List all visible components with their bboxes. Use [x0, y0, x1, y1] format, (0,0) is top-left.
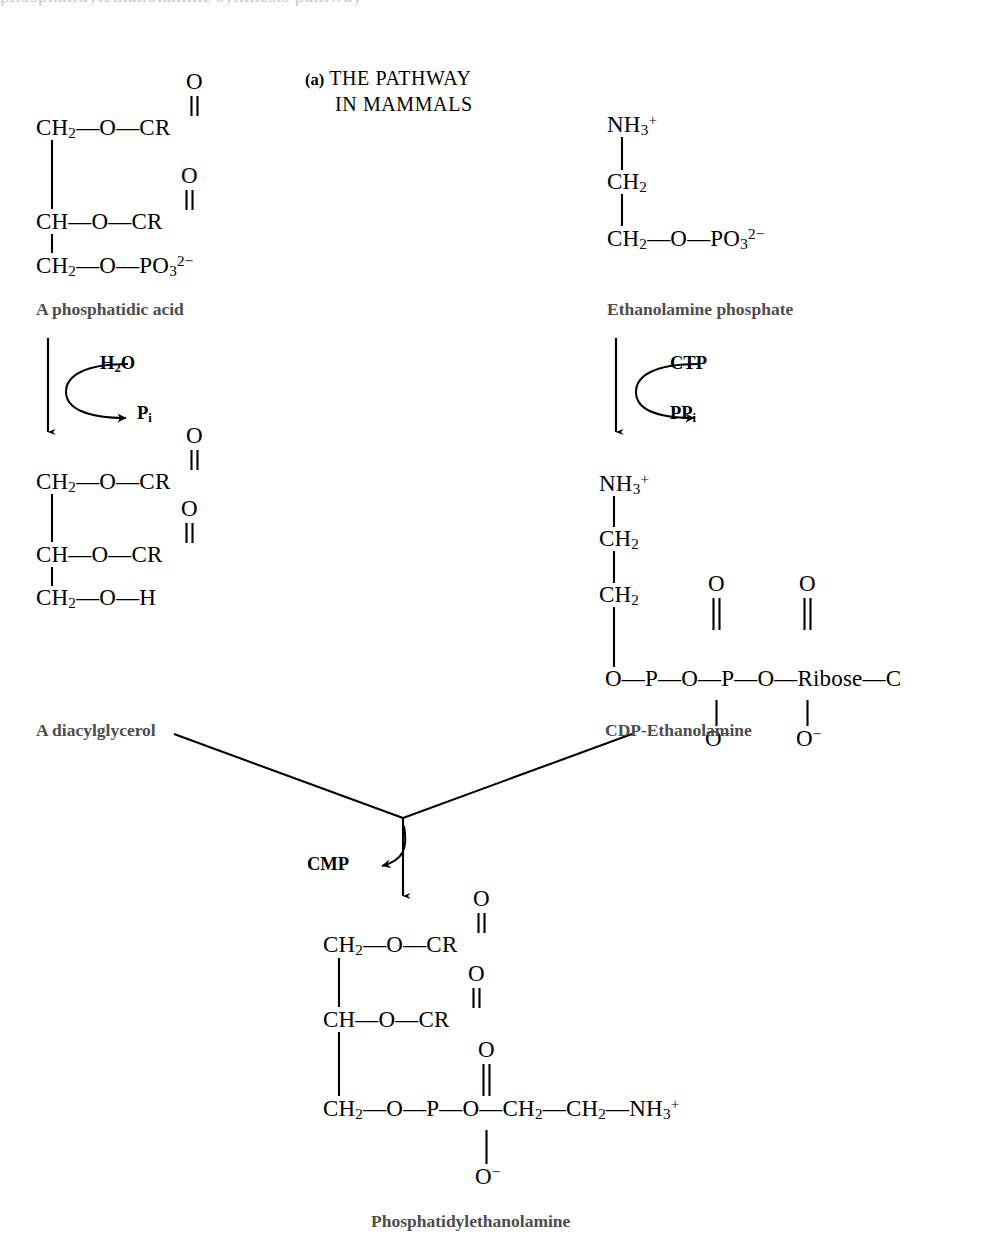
cofactor-water: H2O [100, 354, 135, 374]
dag-carbonyl-oxygen-1: O [186, 424, 203, 447]
converge-line-right [403, 734, 632, 818]
compound-label-diacylglycerol: A diacylglycerol [36, 722, 156, 740]
panel-tag: (a) [305, 70, 324, 89]
cdp-p2-top-oxygen: O [799, 572, 816, 595]
pe-carbonyl-oxygen-2: O [468, 962, 485, 985]
cdp-p2-bottom-oxygen: O− [796, 726, 822, 750]
cdp-diphosphate-chain: O—P—O—P—O—Ribose—C [605, 667, 901, 690]
compound-label-ethanolamine-phosphate: Ethanolamine phosphate [607, 301, 793, 319]
carbonyl-oxygen-2: O [181, 164, 198, 187]
curved-arrow-cmp-release [382, 826, 405, 866]
converge-line-left [174, 734, 403, 818]
glycerol-c2-row: CH—O—CR [36, 210, 163, 233]
compound-label-phosphatidylethanolamine: Phosphatidylethanolamine [371, 1213, 570, 1231]
dag-c1-row: CH2—O—CR [36, 470, 170, 494]
cofactor-inorganic-phosphate: Pi [137, 404, 152, 424]
compound-label-cdp-ethanolamine: CDP-Ethanolamine [605, 722, 752, 740]
panel-title: (a) THE PATHWAY IN MAMMALS [305, 66, 473, 117]
pe-c1-row: CH2—O—CR [323, 933, 457, 957]
etn-amino-group: NH3+ [607, 112, 657, 137]
carbonyl-oxygen-1: O [186, 70, 203, 93]
cofactor-ctp: CTP [670, 354, 707, 373]
bond-and-arrow-layer [0, 0, 983, 1253]
etn-ch2-lower-row: CH2—O—PO32− [607, 226, 765, 251]
clipped-text: phosphatidylethanolamine synthesis pathw… [0, 0, 362, 6]
dag-c3-row: CH2—O—H [36, 586, 156, 610]
pe-phosphate-bottom-oxygen: O− [475, 1164, 501, 1188]
clipped-text-sliver: phosphatidylethanolamine synthesis pathw… [0, 0, 983, 6]
panel-title-line-2: IN MAMMALS [305, 92, 473, 118]
pe-carbonyl-oxygen-1: O [473, 887, 490, 910]
glycerol-c3-row: CH2—O—PO32− [36, 253, 194, 278]
figure-canvas: phosphatidylethanolamine synthesis pathw… [0, 0, 983, 1253]
cdp-p1-top-oxygen: O [708, 572, 725, 595]
compound-label-phosphatidic-acid: A phosphatidic acid [36, 301, 184, 319]
cofactor-cmp: CMP [307, 855, 349, 874]
panel-title-line-1: (a) THE PATHWAY [305, 66, 473, 92]
pe-c2-row: CH—O—CR [323, 1008, 450, 1031]
cofactor-pyrophosphate: PPi [670, 404, 696, 424]
dag-c2-row: CH—O—CR [36, 543, 163, 566]
glycerol-c1-row: CH2—O—CR [36, 116, 170, 140]
pe-phosphate-top-oxygen: O [478, 1038, 495, 1061]
cdp-ch2-lower: CH2 [599, 583, 639, 607]
panel-title-text-1: THE PATHWAY [329, 67, 471, 89]
cdp-amino-group: NH3+ [599, 471, 649, 496]
pe-c3-headgroup-row: CH2—O—P—O—CH2—CH2—NH3+ [323, 1096, 679, 1121]
etn-ch2-upper: CH2 [607, 170, 647, 194]
dag-carbonyl-oxygen-2: O [181, 497, 198, 520]
cdp-ch2-upper: CH2 [599, 527, 639, 551]
